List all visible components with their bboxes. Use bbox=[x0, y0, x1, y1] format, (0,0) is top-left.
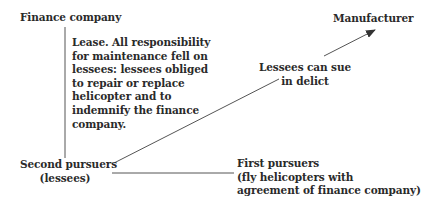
lease-annotation: Lease. All responsibility for maintenanc… bbox=[72, 36, 210, 131]
first-pursuers-sublabel: (fly helicopters with bbox=[237, 171, 421, 185]
node-second-pursuers: Second pursuers (lessees) bbox=[20, 158, 110, 185]
lease-text-line: lessees: lessees obliged bbox=[72, 63, 210, 77]
lease-text-line: helicopter and to bbox=[72, 90, 210, 104]
node-finance-company: Finance company bbox=[20, 11, 121, 25]
delict-line-upper bbox=[324, 30, 375, 56]
second-pursuers-sublabel: (lessees) bbox=[20, 172, 110, 186]
delict-text-line: in delict bbox=[258, 75, 352, 89]
lease-text-line: to repair or replace bbox=[72, 77, 210, 91]
lease-text-line: for maintenance fell on bbox=[72, 50, 210, 64]
first-pursuers-label: First pursuers bbox=[237, 157, 421, 171]
delict-annotation: Lessees can sue in delict bbox=[258, 61, 352, 88]
second-pursuers-label: Second pursuers bbox=[20, 158, 110, 172]
manufacturer-label: Manufacturer bbox=[333, 12, 413, 24]
lease-text-line: Lease. All responsibility bbox=[72, 36, 210, 50]
node-first-pursuers: First pursuers (fly helicopters with agr… bbox=[237, 157, 421, 198]
node-manufacturer: Manufacturer bbox=[333, 12, 413, 26]
delict-text-line: Lessees can sue bbox=[258, 61, 352, 75]
first-pursuers-sublabel: agreement of finance company) bbox=[237, 184, 421, 198]
finance-company-label: Finance company bbox=[20, 11, 121, 23]
lease-text-line: company. bbox=[72, 118, 210, 132]
lease-text-line: indemnify the finance bbox=[72, 104, 210, 118]
